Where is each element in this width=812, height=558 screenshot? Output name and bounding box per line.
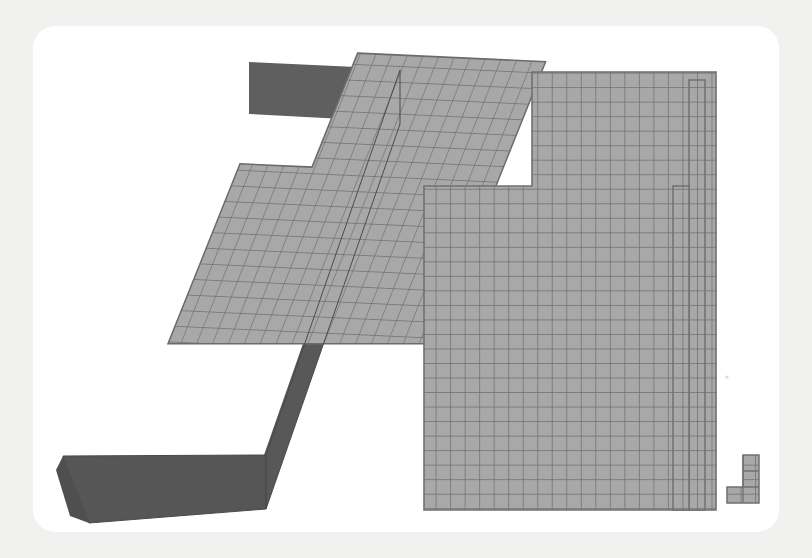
- speck-artifact: [725, 375, 728, 378]
- ones-units[interactable]: [720, 450, 768, 510]
- cube-front-face: [56, 455, 266, 523]
- scene-root: Base-Ten Blocks Place Value Model 3D iso…: [0, 0, 812, 558]
- blocks-layer: [0, 0, 812, 558]
